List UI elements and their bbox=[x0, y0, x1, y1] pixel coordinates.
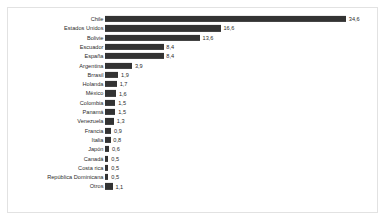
bar-track: 8,4 bbox=[105, 44, 375, 50]
bar-value-label: 1,3 bbox=[114, 118, 125, 124]
bar-track: 1,3 bbox=[105, 118, 375, 124]
category-label: Panamá bbox=[83, 109, 104, 115]
category-label: México bbox=[86, 90, 104, 96]
category-label: Otros bbox=[90, 183, 104, 189]
chart-figure: Chile34,6Estados Unidos16,6Bolivie13,6Es… bbox=[7, 7, 378, 213]
bar-track: 1,5 bbox=[105, 100, 375, 106]
bar bbox=[105, 109, 115, 115]
category-label: Holanda bbox=[83, 81, 104, 87]
category-label: Canadá bbox=[84, 155, 104, 161]
bar-value-label: 8,4 bbox=[164, 44, 175, 50]
bar-value-label: 34,6 bbox=[346, 16, 360, 22]
bar bbox=[105, 72, 118, 78]
bar bbox=[105, 62, 132, 68]
bar-row: Colombia1,5 bbox=[8, 98, 377, 107]
bar-row: Otros1,1 bbox=[8, 182, 377, 191]
bar-value-label: 0,5 bbox=[108, 174, 119, 180]
bar-chart-plot-area: Chile34,6Estados Unidos16,6Bolivie13,6Es… bbox=[8, 8, 377, 212]
category-label: Escuador bbox=[80, 44, 104, 50]
bar-value-label: 0,6 bbox=[109, 146, 120, 152]
bar-value-label: 1,6 bbox=[116, 90, 127, 96]
category-label: Italia bbox=[92, 137, 104, 143]
bar bbox=[105, 183, 113, 189]
bar-track: 16,6 bbox=[105, 25, 375, 31]
bar-track: 1,9 bbox=[105, 72, 375, 78]
category-label: Venezuela bbox=[77, 118, 103, 124]
category-label: Costa rica bbox=[78, 165, 103, 171]
bar-value-label: 3,9 bbox=[132, 62, 143, 68]
bar-row: Japón0,6 bbox=[8, 145, 377, 154]
bar-row: Costa rica0,5 bbox=[8, 163, 377, 172]
bar bbox=[105, 44, 164, 50]
bar-value-label: 1,9 bbox=[118, 72, 129, 78]
bar-value-label: 8,4 bbox=[164, 53, 175, 59]
category-label: Chile bbox=[91, 16, 104, 22]
bar-track: 13,6 bbox=[105, 35, 375, 41]
category-label: Colombia bbox=[80, 100, 104, 106]
bar-track: 0,5 bbox=[105, 155, 375, 161]
category-label: Japón bbox=[88, 146, 103, 152]
bar-track: 8,4 bbox=[105, 53, 375, 59]
bar-track: 1,1 bbox=[105, 183, 375, 189]
bar-row: España8,4 bbox=[8, 52, 377, 61]
bar bbox=[105, 16, 346, 22]
category-label: Argentina bbox=[79, 62, 103, 68]
bar-track: 3,9 bbox=[105, 62, 375, 68]
bar bbox=[105, 53, 164, 59]
bar-row: Chile34,6 bbox=[8, 14, 377, 23]
bar-row: Venezuela1,3 bbox=[8, 117, 377, 126]
bar-track: 0,5 bbox=[105, 174, 375, 180]
bar-row: Brrasil1,9 bbox=[8, 70, 377, 79]
bar-value-label: 1,5 bbox=[115, 100, 126, 106]
bar-track: 1,5 bbox=[105, 109, 375, 115]
bar-value-label: 13,6 bbox=[200, 34, 214, 40]
bar-value-label: 1,7 bbox=[117, 81, 128, 87]
bar-row: Bolivie13,6 bbox=[8, 33, 377, 42]
bar-row: Estados Unidos16,6 bbox=[8, 24, 377, 33]
bar-row: Italia0,8 bbox=[8, 135, 377, 144]
bar-value-label: 1,5 bbox=[115, 109, 126, 115]
bar bbox=[105, 81, 117, 87]
bar-track: 0,9 bbox=[105, 128, 375, 134]
category-label: Brrasil bbox=[88, 72, 104, 78]
bar-row: Panamá1,5 bbox=[8, 107, 377, 116]
category-label: Estados Unidos bbox=[64, 25, 103, 31]
bar-value-label: 0,8 bbox=[111, 137, 122, 143]
bar bbox=[105, 118, 114, 124]
category-label: Bolivie bbox=[87, 34, 104, 40]
bar bbox=[105, 90, 116, 96]
bar-value-label: 0,5 bbox=[108, 155, 119, 161]
category-label: España bbox=[84, 53, 103, 59]
bar-track: 34,6 bbox=[105, 16, 375, 22]
category-label: Francia bbox=[85, 127, 104, 133]
bar-row: Canadá0,5 bbox=[8, 154, 377, 163]
bar-row: Escuador8,4 bbox=[8, 42, 377, 51]
category-label: República Dominicana bbox=[47, 174, 103, 180]
bar-track: 0,6 bbox=[105, 146, 375, 152]
bar-value-label: 1,1 bbox=[113, 183, 124, 189]
bar bbox=[105, 35, 200, 41]
bar-value-label: 16,6 bbox=[221, 25, 235, 31]
bar-track: 0,8 bbox=[105, 137, 375, 143]
bar-value-label: 0,9 bbox=[111, 127, 122, 133]
bar-track: 1,7 bbox=[105, 81, 375, 87]
bar-row: México1,6 bbox=[8, 89, 377, 98]
bar-row: Francia0,9 bbox=[8, 126, 377, 135]
bar bbox=[105, 25, 221, 31]
bar-track: 1,6 bbox=[105, 90, 375, 96]
bar-row: Argentina3,9 bbox=[8, 61, 377, 70]
bar-track: 0,5 bbox=[105, 165, 375, 171]
bar-row: Holanda1,7 bbox=[8, 80, 377, 89]
bar-row: República Dominicana0,5 bbox=[8, 173, 377, 182]
bar bbox=[105, 100, 115, 106]
bar-value-label: 0,5 bbox=[108, 165, 119, 171]
